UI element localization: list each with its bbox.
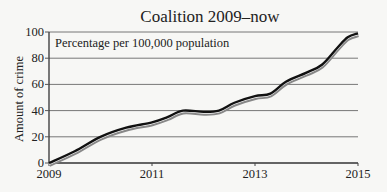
series-shadow-line [50, 36, 359, 166]
line-chart: Coalition 2009–now 020406080100 20092011… [0, 0, 387, 192]
x-tick-label: 2015 [346, 167, 371, 181]
series-highlight-line [49, 35, 358, 165]
x-axis-ticks: 2009201120132015 [37, 163, 371, 181]
x-tick-label: 2013 [243, 167, 268, 181]
y-axis-label: Amount of crime [12, 56, 26, 143]
chart-title: Coalition 2009–now [140, 7, 280, 26]
y-axis-ticks: 020406080100 [25, 25, 49, 170]
y-tick-label: 100 [25, 25, 44, 39]
data-series [49, 33, 359, 165]
y-tick-label: 60 [32, 77, 45, 91]
y-tick-label: 40 [32, 104, 45, 118]
y-tick-label: 80 [32, 51, 45, 65]
x-tick-label: 2011 [140, 167, 165, 181]
chart-annotation: Percentage per 100,000 population [55, 36, 230, 50]
x-tick-label: 2009 [37, 167, 62, 181]
y-tick-label: 20 [32, 130, 45, 144]
